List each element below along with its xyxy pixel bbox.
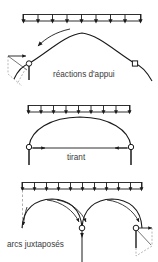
right-roller-support-1	[132, 61, 137, 66]
roller-support-square	[132, 61, 137, 66]
caption-reactions-appui: réactions d'appui	[53, 70, 115, 79]
diagram-root: réactions d'appui	[0, 0, 158, 262]
caption-arcs-juxtaposes: arcs juxtaposés	[7, 240, 64, 249]
caption-tirant: tirant	[67, 153, 86, 162]
pin-support-circle	[26, 61, 31, 66]
pin-support-circle	[26, 144, 31, 149]
pin-support-circle	[128, 144, 133, 149]
pin-support-circle	[79, 225, 85, 231]
structural-arch-diagram: réactions d'appui	[0, 0, 158, 262]
pin-support-circle	[133, 225, 139, 231]
